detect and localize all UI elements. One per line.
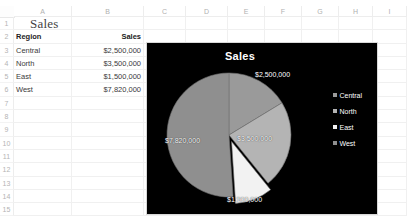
cell-a10[interactable] bbox=[14, 137, 72, 150]
column-header-row: A B C D E F G H I bbox=[14, 6, 407, 17]
pie-chart-plot-area: $2,500,000 $3,500,000 $7,820,000 $1,500,… bbox=[159, 69, 307, 209]
cell-b14[interactable] bbox=[72, 190, 144, 203]
cell-b13[interactable] bbox=[72, 177, 144, 190]
cell-b1[interactable] bbox=[72, 17, 144, 30]
sheet-row-1: Sales bbox=[14, 17, 407, 30]
legend-item-east[interactable]: East bbox=[333, 119, 378, 135]
cell-a7[interactable] bbox=[14, 97, 72, 110]
cell-a15[interactable] bbox=[14, 203, 72, 216]
row-header-8[interactable]: 8 bbox=[0, 110, 14, 123]
cell-g1[interactable] bbox=[302, 17, 339, 30]
cell-i10[interactable] bbox=[373, 137, 407, 150]
legend-label-central: Central bbox=[340, 92, 363, 99]
column-header-e[interactable]: E bbox=[228, 6, 265, 17]
cell-i4[interactable] bbox=[373, 57, 407, 70]
chart-title: Sales bbox=[147, 50, 333, 62]
cell-i11[interactable] bbox=[373, 150, 407, 163]
pie-label-east: $1,500,000 bbox=[227, 196, 262, 203]
pie-slice-west[interactable] bbox=[167, 73, 233, 197]
cell-i12[interactable] bbox=[373, 163, 407, 176]
row-header-14[interactable]: 14 bbox=[0, 190, 14, 203]
cell-b12[interactable] bbox=[72, 163, 144, 176]
legend-swatch-west-icon bbox=[333, 141, 337, 145]
cell-b8[interactable] bbox=[72, 110, 144, 123]
column-header-c[interactable]: C bbox=[144, 6, 186, 17]
cell-a8[interactable] bbox=[14, 110, 72, 123]
row-header-9[interactable]: 9 bbox=[0, 123, 14, 136]
column-header-d[interactable]: D bbox=[186, 6, 228, 17]
cell-a3-region[interactable]: Central bbox=[14, 44, 72, 57]
cell-i3[interactable] bbox=[373, 44, 407, 57]
row-header-4[interactable]: 4 bbox=[0, 57, 14, 70]
legend-label-west: West bbox=[340, 140, 356, 147]
cell-c1[interactable] bbox=[144, 17, 186, 30]
cell-i7[interactable] bbox=[373, 97, 407, 110]
cell-a9[interactable] bbox=[14, 123, 72, 136]
cell-a12[interactable] bbox=[14, 163, 72, 176]
legend-item-west[interactable]: West bbox=[333, 135, 378, 151]
row-header-3[interactable]: 3 bbox=[0, 44, 14, 57]
cell-b4-sales[interactable]: $3,500,000 bbox=[72, 57, 144, 70]
cell-i13[interactable] bbox=[373, 177, 407, 190]
column-header-h[interactable]: H bbox=[339, 6, 373, 17]
cell-a1-title[interactable]: Sales bbox=[14, 17, 72, 30]
row-header-15[interactable]: 15 bbox=[0, 203, 14, 216]
legend-swatch-east-icon bbox=[333, 125, 337, 129]
column-header-g[interactable]: G bbox=[302, 6, 339, 17]
cell-d1[interactable] bbox=[186, 17, 228, 30]
pie-label-north: $3,500,000 bbox=[237, 135, 272, 142]
cell-b6-sales[interactable]: $7,820,000 bbox=[72, 83, 144, 96]
row-header-13[interactable]: 13 bbox=[0, 177, 14, 190]
pie-chart-object[interactable]: Sales $2,500,000 $3,500,000 $7,820,000 $… bbox=[146, 42, 378, 215]
pie-label-west: $7,820,000 bbox=[165, 137, 200, 144]
row-header-6[interactable]: 6 bbox=[0, 83, 14, 96]
cell-a4-region[interactable]: North bbox=[14, 57, 72, 70]
row-header-10[interactable]: 10 bbox=[0, 137, 14, 150]
cell-i15[interactable] bbox=[373, 203, 407, 216]
legend-item-north[interactable]: North bbox=[333, 103, 378, 119]
row-header-1[interactable]: 1 bbox=[0, 17, 14, 30]
legend-swatch-north-icon bbox=[333, 109, 337, 113]
cell-e1[interactable] bbox=[228, 17, 265, 30]
cell-b10[interactable] bbox=[72, 137, 144, 150]
cell-i5[interactable] bbox=[373, 70, 407, 83]
cell-i1[interactable] bbox=[373, 17, 407, 30]
row-header-column: 1 2 3 4 5 6 7 8 9 10 11 12 13 14 15 bbox=[0, 17, 14, 216]
cell-a14[interactable] bbox=[14, 190, 72, 203]
pie-label-central: $2,500,000 bbox=[255, 71, 290, 78]
chart-legend: Central North East West bbox=[333, 87, 378, 151]
legend-item-central[interactable]: Central bbox=[333, 87, 378, 103]
legend-label-east: East bbox=[340, 124, 354, 131]
row-header-5[interactable]: 5 bbox=[0, 70, 14, 83]
row-header-12[interactable]: 12 bbox=[0, 163, 14, 176]
legend-label-north: North bbox=[340, 108, 357, 115]
row-header-2[interactable]: 2 bbox=[0, 30, 14, 43]
cell-i2[interactable] bbox=[373, 30, 407, 43]
column-header-i[interactable]: I bbox=[373, 6, 407, 17]
cell-b3-sales[interactable]: $2,500,000 bbox=[72, 44, 144, 57]
cell-a11[interactable] bbox=[14, 150, 72, 163]
cell-i6[interactable] bbox=[373, 83, 407, 96]
row-header-7[interactable]: 7 bbox=[0, 97, 14, 110]
legend-swatch-central-icon bbox=[333, 93, 337, 97]
cell-b9[interactable] bbox=[72, 123, 144, 136]
cell-f1[interactable] bbox=[265, 17, 302, 30]
column-header-b[interactable]: B bbox=[72, 6, 144, 17]
cell-a5-region[interactable]: East bbox=[14, 70, 72, 83]
cell-b2-sales-header[interactable]: Sales bbox=[72, 30, 144, 43]
cell-b5-sales[interactable]: $1,500,000 bbox=[72, 70, 144, 83]
cell-a2-region-header[interactable]: Region bbox=[14, 30, 72, 43]
cell-i14[interactable] bbox=[373, 190, 407, 203]
column-header-a[interactable]: A bbox=[14, 6, 72, 17]
cell-b15[interactable] bbox=[72, 203, 144, 216]
cell-h1[interactable] bbox=[339, 17, 373, 30]
cell-i9[interactable] bbox=[373, 123, 407, 136]
cell-b7[interactable] bbox=[72, 97, 144, 110]
cell-a6-region[interactable]: West bbox=[14, 83, 72, 96]
row-header-11[interactable]: 11 bbox=[0, 150, 14, 163]
column-header-f[interactable]: F bbox=[265, 6, 302, 17]
cell-i8[interactable] bbox=[373, 110, 407, 123]
cell-b11[interactable] bbox=[72, 150, 144, 163]
cell-a13[interactable] bbox=[14, 177, 72, 190]
